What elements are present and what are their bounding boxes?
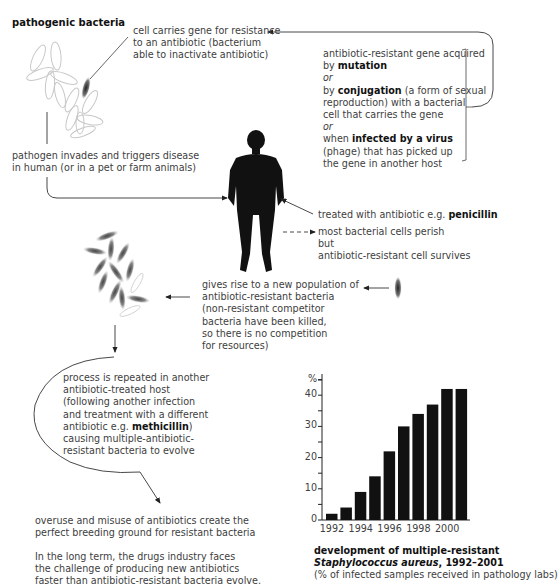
- caption-line-1: development of multiple-resistant: [314, 545, 558, 557]
- text-line: most bacterial cells perish: [318, 226, 471, 238]
- or-word: or: [323, 121, 333, 132]
- text-line: cell carries gene for resistance: [133, 25, 281, 37]
- mutation-term: mutation: [338, 60, 387, 71]
- text-span: (a form of sexual: [402, 85, 486, 96]
- text-line: antibiotic-treated host: [63, 384, 209, 396]
- text-span: ): [189, 421, 193, 432]
- text-line: by conjugation (a form of sexual: [323, 85, 486, 97]
- virus-term: infected by a virus: [352, 133, 453, 144]
- gene-acquired-label: antibiotic-resistant gene acquired by mu…: [323, 48, 486, 170]
- text-line: cell that carries the gene: [323, 109, 486, 121]
- text-line: bacteria have been killed,: [202, 316, 359, 328]
- text-line: so there is no competition: [202, 328, 359, 340]
- text-line: antibiotic-resistant gene acquired: [323, 48, 486, 60]
- text-line: In the long term, the drugs industry fac…: [35, 551, 261, 563]
- treated-label: treated with antibiotic e.g. penicillin: [318, 209, 498, 221]
- text-line: or: [323, 121, 486, 133]
- new-population-label: gives rise to a new population of antibi…: [202, 279, 359, 352]
- text-line: antibiotic-resistant bacteria: [202, 291, 359, 303]
- text-line: to an antibiotic (bacterium: [133, 37, 281, 49]
- chart-caption: development of multiple-resistant Staphy…: [314, 545, 558, 582]
- bacteria-cluster-icon: [25, 42, 103, 141]
- text-line: when infected by a virus: [323, 133, 486, 145]
- text-line: faster than antibiotic-resistant bacteri…: [35, 575, 261, 586]
- text-line: overuse and misuse of antibiotics create…: [35, 515, 255, 527]
- resistant-cell-label: cell carries gene for resistance to an a…: [133, 25, 281, 62]
- conjugation-term: conjugation: [338, 85, 402, 96]
- text-line: the gene in another host: [323, 158, 486, 170]
- text-line: (phage) that has picked up: [323, 146, 486, 158]
- text-line: antibiotic-resistant cell survives: [318, 250, 471, 262]
- text-line: perfect breeding ground for resistant ba…: [35, 527, 255, 539]
- text-span: treated with antibiotic e.g.: [318, 209, 448, 220]
- overuse-label: overuse and misuse of antibiotics create…: [35, 515, 255, 539]
- text-line: causing multiple-antibiotic-: [63, 433, 209, 445]
- resistant-population-icon: [83, 229, 151, 319]
- text-line: the challenge of producing new antibioti…: [35, 563, 261, 575]
- caption-title: development of multiple-resistant: [314, 545, 499, 556]
- text-line: but: [318, 238, 471, 250]
- perish-label: most bacterial cells perish but antibiot…: [318, 226, 471, 263]
- text-line: or: [323, 72, 486, 84]
- pathogen-invades-label: pathogen invades and triggers disease in…: [12, 150, 199, 174]
- penicillin-term: penicillin: [448, 209, 497, 220]
- text-line: for resources): [202, 340, 359, 352]
- text-line: (non-resistant competitor: [202, 303, 359, 315]
- text-line: pathogen invades and triggers disease: [12, 150, 199, 162]
- text-line: and treatment with a different: [63, 409, 209, 421]
- year-range: , 1992–2001: [438, 557, 503, 568]
- text-span: antibiotic e.g.: [63, 421, 132, 432]
- species-name: Staphylococcus aureus: [314, 557, 438, 568]
- long-term-label: In the long term, the drugs industry fac…: [35, 551, 261, 586]
- resistant-bacterium-icon: [80, 76, 92, 99]
- text-line: antibiotic e.g. methicillin): [63, 421, 209, 433]
- text-span: when: [323, 133, 352, 144]
- surviving-bacterium-icon: [395, 277, 402, 299]
- caption-line-2: Staphylococcus aureus, 1992–2001: [314, 557, 558, 569]
- caption-subtitle: (% of infected samples received in patho…: [314, 569, 558, 581]
- methicillin-term: methicillin: [132, 421, 189, 432]
- human-silhouette-icon: [228, 130, 284, 272]
- text-line: in human (or in a pet or farm animals): [12, 162, 199, 174]
- process-repeated-label: process is repeated in another antibioti…: [63, 372, 209, 457]
- text-line: (following another infection: [63, 396, 209, 408]
- text-line: able to inactivate antibiotic): [133, 49, 281, 61]
- text-line: process is repeated in another: [63, 372, 209, 384]
- text-line: by mutation: [323, 60, 486, 72]
- text-span: by: [323, 60, 338, 71]
- text-span: by: [323, 85, 338, 96]
- or-word: or: [323, 72, 333, 83]
- text-line: gives rise to a new population of: [202, 279, 359, 291]
- text-line: resistant bacteria to evolve: [63, 445, 209, 457]
- text-line: reproduction) with a bacterial: [323, 97, 486, 109]
